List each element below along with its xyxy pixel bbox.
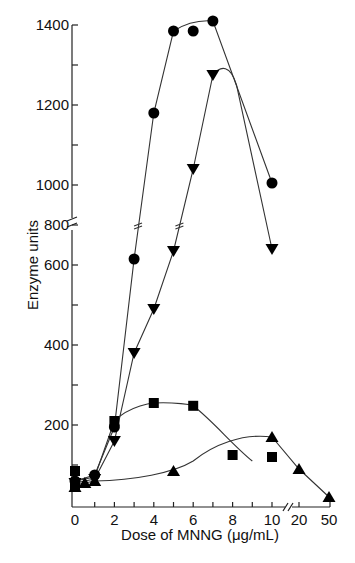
down-triangles-curve — [75, 68, 272, 483]
triangle-down-marker-icon — [167, 246, 180, 257]
triangle-down-marker-icon — [108, 436, 121, 447]
square-marker-icon — [70, 466, 80, 476]
y-tick-label: 1400 — [36, 16, 69, 33]
x-tick-label: 2 — [110, 511, 118, 528]
triangle-up-marker-icon — [293, 463, 306, 474]
data-markers — [69, 16, 336, 503]
y-axis-title: Enzyme units — [24, 220, 41, 310]
triangle-down-marker-icon — [206, 70, 219, 81]
squares-curve — [75, 403, 252, 481]
circle-marker-icon — [267, 178, 278, 189]
circle-marker-icon — [207, 16, 218, 27]
y-tick-label: 600 — [44, 256, 69, 273]
square-marker-icon — [228, 450, 238, 460]
y-tick-label: 800 — [44, 216, 69, 233]
square-marker-icon — [267, 452, 277, 462]
up-triangles-curve — [75, 436, 329, 497]
triangle-down-marker-icon — [128, 348, 141, 359]
circle-marker-icon — [188, 26, 199, 37]
enzyme-dose-chart: 20040060080010001200140002468102050 Dose… — [0, 0, 355, 563]
triangle-down-marker-icon — [187, 164, 200, 175]
square-marker-icon — [109, 416, 119, 426]
x-tick-label: 50 — [321, 511, 338, 528]
y-tick-label: 1200 — [36, 96, 69, 113]
x-tick-label: 0 — [71, 511, 79, 528]
square-marker-icon — [149, 398, 159, 408]
x-axis-title: Dose of MNNG (μg/mL) — [121, 526, 279, 543]
circle-marker-icon — [168, 26, 179, 37]
circle-marker-icon — [129, 254, 140, 265]
square-marker-icon — [188, 401, 198, 411]
y-tick-label: 200 — [44, 416, 69, 433]
triangle-down-marker-icon — [147, 304, 160, 315]
triangle-down-marker-icon — [266, 244, 279, 255]
tick-labels: 20040060080010001200140002468102050 — [36, 16, 338, 528]
circle-marker-icon — [148, 108, 159, 119]
axes — [67, 25, 330, 511]
x-tick-label: 20 — [291, 511, 308, 528]
y-tick-label: 400 — [44, 336, 69, 353]
y-tick-label: 1000 — [36, 176, 69, 193]
